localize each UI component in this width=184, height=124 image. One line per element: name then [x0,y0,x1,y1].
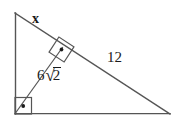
label-side-x: x [32,12,39,26]
label-side-12: 12 [107,50,122,65]
triangle-diagram-svg [0,0,184,124]
radical-group: √2 [45,66,62,83]
altitude-coefficient: 6 [37,67,45,83]
right-angle-dot-bottom-left [21,104,25,108]
label-altitude-length: 6√2 [37,66,61,83]
geometry-figure: x 12 6√2 [0,0,184,124]
hypotenuse-line [15,13,170,114]
right-angle-marker-bottom-left [15,98,32,115]
radical-sign-icon: √ [46,67,55,84]
